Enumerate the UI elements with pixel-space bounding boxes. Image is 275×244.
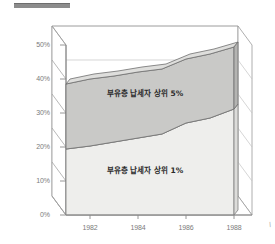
chart-right-wall xyxy=(238,26,252,215)
chart-left-wall xyxy=(52,26,66,215)
x-tick-label-1984: 1984 xyxy=(118,224,158,231)
chart-container: 50% 40% 30% 20% 10% 0% 1982 1984 1986 19… xyxy=(0,0,275,244)
area-chart-plot xyxy=(0,0,275,244)
x-tick-label-1986: 1986 xyxy=(166,224,206,231)
x-tick-label-1982: 1982 xyxy=(70,224,110,231)
x-tick-label-1988: 1988 xyxy=(214,224,254,231)
series-label-top-5pct: 부유층 납세자 상위 5% xyxy=(75,87,215,98)
y-tick-label-0: 0% xyxy=(22,211,50,218)
y-tick-label-50: 50% xyxy=(22,41,50,48)
y-tick-label-20: 20% xyxy=(22,143,50,150)
series-label-top-1pct: 부유층 납세자 상위 1% xyxy=(75,164,215,175)
y-tick-label-40: 40% xyxy=(22,75,50,82)
y-tick-label-10: 10% xyxy=(22,177,50,184)
x-axis xyxy=(66,215,252,219)
y-tick-label-30: 30% xyxy=(22,109,50,116)
